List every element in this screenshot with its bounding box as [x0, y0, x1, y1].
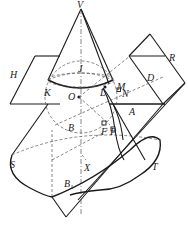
label-s: S	[10, 159, 15, 170]
label-p: P	[109, 126, 116, 137]
label-l: L	[99, 87, 106, 98]
geometry-diagram: V R H J D K L M N O A B F P S X T B1	[0, 0, 188, 234]
label-h: H	[9, 69, 18, 80]
label-t: T	[152, 161, 159, 172]
label-b: B	[68, 122, 74, 133]
label-j: J	[78, 63, 83, 74]
label-d: D	[146, 72, 155, 83]
label-o: O	[68, 91, 75, 102]
label-r: R	[168, 52, 175, 63]
label-f: F	[100, 126, 108, 137]
point-f-marker	[102, 121, 106, 125]
labels: V R H J D K L M N O A B F P S X T B1	[9, 0, 175, 191]
label-v: V	[77, 0, 85, 10]
label-x: X	[83, 162, 91, 173]
plane-h	[10, 56, 165, 104]
label-k: K	[43, 87, 52, 98]
lower-cone	[10, 104, 160, 197]
label-a: A	[128, 106, 136, 117]
label-n: N	[121, 88, 130, 99]
